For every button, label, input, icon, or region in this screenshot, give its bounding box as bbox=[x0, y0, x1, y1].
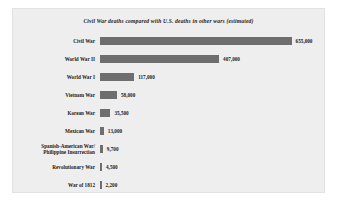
category-label: World War I bbox=[13, 74, 100, 80]
bar bbox=[100, 37, 292, 45]
bar bbox=[100, 109, 110, 117]
value-label: 407,000 bbox=[219, 56, 240, 62]
value-label: 9,700 bbox=[103, 146, 119, 152]
value-label: 2,200 bbox=[102, 182, 118, 188]
bar-row: World War II 407,000 bbox=[13, 51, 324, 67]
category-label: Revolutionary War bbox=[13, 164, 100, 170]
bar bbox=[100, 55, 219, 63]
bar-group: 117,000 bbox=[100, 69, 324, 85]
bar-group: 9,700 bbox=[100, 141, 324, 157]
bar-group: 58,000 bbox=[100, 87, 324, 103]
value-label: 35,500 bbox=[110, 110, 128, 116]
category-label: Civil War bbox=[13, 38, 100, 44]
bar-row: Revolutionary War 4,500 bbox=[13, 159, 324, 175]
category-label: Spanish-American War/ Philippine Insurre… bbox=[13, 143, 100, 155]
category-label: Vietnam War bbox=[13, 92, 100, 98]
bar-row: Korean War 35,500 bbox=[13, 105, 324, 121]
plot-area: Civil War 655,000 World War II 407,000 W… bbox=[13, 33, 324, 191]
category-label: World War II bbox=[13, 56, 100, 62]
bar-row: Vietnam War 58,000 bbox=[13, 87, 324, 103]
bar-row: Civil War 655,000 bbox=[13, 33, 324, 49]
category-label: Mexican War bbox=[13, 128, 100, 134]
bar-group: 655,000 bbox=[100, 33, 324, 49]
bar-row: Spanish-American War/ Philippine Insurre… bbox=[13, 141, 324, 157]
value-label: 4,500 bbox=[102, 164, 118, 170]
value-label: 58,000 bbox=[117, 92, 135, 98]
bar-group: 13,000 bbox=[100, 123, 324, 139]
category-label: War of 1812 bbox=[13, 182, 100, 188]
chart-title: Civil War deaths compared with U.S. deat… bbox=[13, 18, 324, 24]
bar-group: 407,000 bbox=[100, 51, 324, 67]
chart-figure: Civil War deaths compared with U.S. deat… bbox=[12, 8, 325, 193]
bar-row: World War I 117,000 bbox=[13, 69, 324, 85]
bar-group: 35,500 bbox=[100, 105, 324, 121]
bar-row: War of 1812 2,200 bbox=[13, 177, 324, 193]
category-label: Korean War bbox=[13, 110, 100, 116]
value-label: 117,000 bbox=[134, 74, 155, 80]
bar-group: 4,500 bbox=[100, 159, 324, 175]
value-label: 655,000 bbox=[292, 38, 313, 44]
bar bbox=[100, 73, 134, 81]
bar-group: 2,200 bbox=[100, 177, 324, 193]
bar bbox=[100, 91, 117, 99]
value-label: 13,000 bbox=[104, 128, 122, 134]
bar-row: Mexican War 13,000 bbox=[13, 123, 324, 139]
